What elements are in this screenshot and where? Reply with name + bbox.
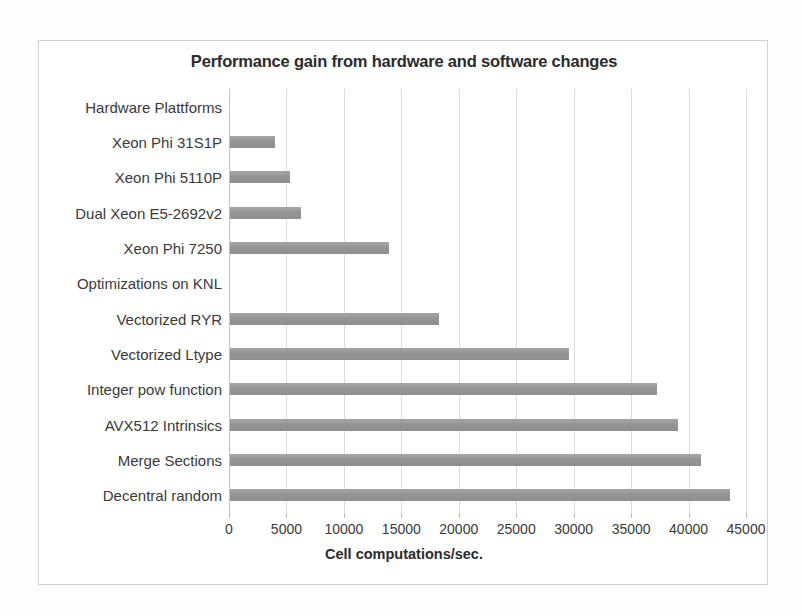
x-axis-tick	[286, 513, 287, 518]
x-axis-tick-label: 45000	[727, 521, 766, 537]
bar	[230, 348, 569, 360]
x-axis-tick-label: 5000	[271, 521, 302, 537]
category-label: Vectorized RYR	[116, 310, 222, 327]
category-row: Integer pow function	[229, 372, 746, 407]
category-label: Integer pow function	[87, 381, 222, 398]
bar	[230, 419, 678, 431]
x-axis-tick	[229, 513, 230, 518]
x-axis-tick-label: 20000	[439, 521, 478, 537]
category-label: Decentral random	[103, 487, 222, 504]
bar	[230, 383, 657, 395]
chart-frame: Performance gain from hardware and softw…	[38, 40, 768, 585]
category-label: Merge Sections	[118, 451, 222, 468]
bar	[230, 489, 730, 501]
gridline	[746, 89, 747, 513]
category-label: AVX512 Intrinsics	[105, 416, 222, 433]
category-row: AVX512 Intrinsics	[229, 407, 746, 442]
x-axis-tick-label: 30000	[554, 521, 593, 537]
x-axis-tick-label: 35000	[612, 521, 651, 537]
bar	[230, 207, 301, 219]
category-row: Vectorized RYR	[229, 301, 746, 336]
category-row: Hardware Plattforms	[229, 89, 746, 124]
bar	[230, 454, 701, 466]
x-axis-tick	[401, 513, 402, 518]
bar	[230, 136, 275, 148]
x-axis-tick	[459, 513, 460, 518]
chart-title: Performance gain from hardware and softw…	[39, 52, 769, 71]
x-axis-tick	[631, 513, 632, 518]
x-axis-tick-label: 40000	[669, 521, 708, 537]
x-axis-tick	[746, 513, 747, 518]
bar	[230, 313, 439, 325]
category-label: Hardware Plattforms	[85, 98, 222, 115]
category-row: Merge Sections	[229, 442, 746, 477]
x-axis-tick-label: 15000	[382, 521, 421, 537]
category-label: Xeon Phi 7250	[124, 239, 222, 256]
x-axis-tick	[574, 513, 575, 518]
x-axis-title: Cell computations/sec.	[39, 546, 769, 562]
category-row: Optimizations on KNL	[229, 266, 746, 301]
category-row: Vectorized Ltype	[229, 336, 746, 371]
category-row: Xeon Phi 31S1P	[229, 124, 746, 159]
category-row: Dual Xeon E5-2692v2	[229, 195, 746, 230]
x-axis-tick-label: 10000	[324, 521, 363, 537]
category-label: Xeon Phi 31S1P	[112, 133, 222, 150]
category-label: Vectorized Ltype	[111, 345, 222, 362]
category-row: Xeon Phi 7250	[229, 230, 746, 265]
x-axis-tick-label: 25000	[497, 521, 536, 537]
category-label: Optimizations on KNL	[77, 275, 222, 292]
category-row: Xeon Phi 5110P	[229, 160, 746, 195]
bar	[230, 242, 389, 254]
category-label: Dual Xeon E5-2692v2	[75, 204, 222, 221]
x-axis-tick-labels: 0500010000150002000025000300003500040000…	[229, 521, 746, 541]
x-axis-tick	[516, 513, 517, 518]
x-axis-tick-label: 0	[225, 521, 233, 537]
category-label: Xeon Phi 5110P	[115, 169, 222, 186]
plot-area: Hardware PlattformsXeon Phi 31S1PXeon Ph…	[229, 89, 746, 513]
category-row: Decentral random	[229, 478, 746, 513]
x-axis-tick	[344, 513, 345, 518]
bar	[230, 171, 290, 183]
x-axis-tick	[689, 513, 690, 518]
